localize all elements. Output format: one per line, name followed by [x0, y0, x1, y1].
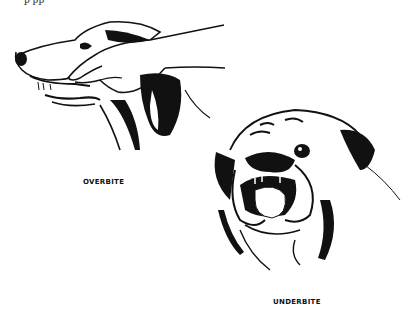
underbite-caption: UNDERBITE	[273, 298, 321, 306]
underbite-bulldog-illustration	[200, 90, 415, 290]
overbite-caption: OVERBITE	[83, 178, 124, 186]
